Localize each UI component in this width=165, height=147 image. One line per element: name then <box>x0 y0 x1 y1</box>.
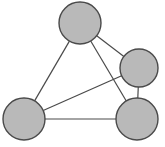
graph-edge-n1-n3 <box>35 41 70 101</box>
graph-node-upper-right[interactable] <box>120 49 158 87</box>
graph-node-lower-right[interactable] <box>116 98 158 140</box>
graph-edge-n3-n2 <box>43 76 121 111</box>
graph-node-top[interactable] <box>59 2 101 44</box>
graph-diagram <box>0 0 165 147</box>
graph-node-lower-left[interactable] <box>3 98 45 140</box>
graph-canvas <box>0 0 165 147</box>
graph-edge-n1-n2 <box>97 36 124 57</box>
